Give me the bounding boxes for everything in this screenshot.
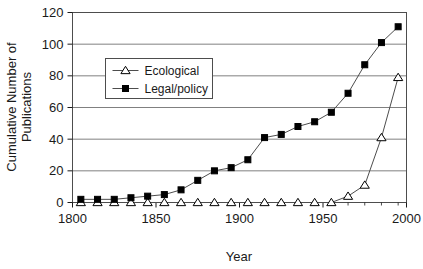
- x-tick-label-2000: 2000: [392, 211, 421, 226]
- data-point-1955: [328, 109, 334, 115]
- legend-marker-filled-square: [123, 86, 129, 92]
- data-point-1825: [111, 196, 117, 202]
- data-point-1885: [211, 168, 217, 174]
- data-point-1975: [362, 62, 368, 68]
- legend-label-1: Legal/policy: [145, 82, 208, 96]
- x-tick-label-1950: 1950: [309, 211, 338, 226]
- x-tick-label-1800: 1800: [58, 211, 87, 226]
- chart-legend: EcologicalLegal/policy: [106, 59, 213, 99]
- data-point-1945: [312, 119, 318, 125]
- data-point-1985: [378, 40, 384, 46]
- data-point-1925: [278, 131, 284, 137]
- data-point-1965: [345, 90, 351, 96]
- data-point-1855: [161, 192, 167, 198]
- data-point-1875: [195, 177, 201, 183]
- x-tick-label-1900: 1900: [225, 211, 254, 226]
- chart-canvas: 020406080100120 18001850190019502000 Eco…: [0, 0, 423, 269]
- data-point-1865: [178, 187, 184, 193]
- y-tick-label-100: 100: [42, 37, 64, 52]
- data-point-1905: [245, 157, 251, 163]
- data-point-1815: [95, 196, 101, 202]
- y-tick-label-60: 60: [49, 100, 63, 115]
- data-point-1995: [395, 24, 401, 30]
- data-point-1845: [145, 193, 151, 199]
- y-tick-label-40: 40: [49, 132, 63, 147]
- y-tick-label-80: 80: [49, 68, 63, 83]
- y-tick-label-0: 0: [56, 195, 63, 210]
- y-axis-title-line1: Cumulative Number of: [4, 42, 19, 172]
- data-point-1935: [295, 124, 301, 130]
- data-point-1805: [78, 196, 84, 202]
- data-point-1915: [262, 135, 268, 141]
- legend-label-0: Ecological: [145, 64, 200, 78]
- data-point-1835: [128, 195, 134, 201]
- x-tick-label-1850: 1850: [142, 211, 171, 226]
- y-axis-title-line2: Publications: [19, 71, 34, 142]
- x-axis-title: Year: [226, 249, 253, 264]
- y-tick-label-120: 120: [42, 5, 64, 20]
- publications-line-chart: 020406080100120 18001850190019502000 Eco…: [0, 0, 423, 269]
- data-point-1895: [228, 165, 234, 171]
- y-tick-label-20: 20: [49, 163, 63, 178]
